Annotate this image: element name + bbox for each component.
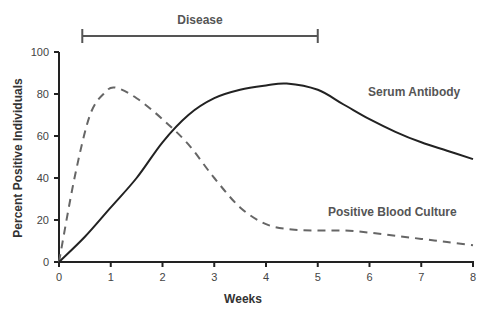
x-tick-label: 5 — [315, 271, 321, 283]
x-tick-label: 4 — [263, 271, 269, 283]
x-tick-label: 6 — [366, 271, 372, 283]
x-tick-label: 2 — [159, 271, 165, 283]
y-tick-label: 0 — [43, 256, 49, 268]
disease-label: Disease — [177, 13, 223, 27]
series-serum-antibody — [59, 83, 473, 262]
serum-antibody-label: Serum Antibody — [368, 85, 461, 99]
y-tick-label: 20 — [37, 214, 49, 226]
x-tick-label: 7 — [418, 271, 424, 283]
x-tick-label: 3 — [211, 271, 217, 283]
line-chart: Disease 020406080100 012345678 Serum Ant… — [0, 0, 488, 317]
x-tick-label: 8 — [470, 271, 476, 283]
y-tick-label: 100 — [31, 46, 49, 58]
y-axis: 020406080100 — [31, 46, 59, 268]
y-tick-label: 80 — [37, 88, 49, 100]
x-tick-label: 0 — [56, 271, 62, 283]
y-axis-title: Percent Positive Individuals — [11, 78, 25, 238]
y-tick-label: 60 — [37, 130, 49, 142]
x-tick-label: 1 — [108, 271, 114, 283]
disease-range-bar: Disease — [82, 13, 317, 43]
x-axis-title: Weeks — [224, 292, 262, 306]
chart: Disease 020406080100 012345678 Serum Ant… — [0, 0, 488, 317]
series-positive-blood-culture — [59, 87, 473, 262]
x-axis: 012345678 — [56, 262, 476, 283]
y-tick-label: 40 — [37, 172, 49, 184]
positive-blood-culture-label: Positive Blood Culture — [328, 205, 457, 219]
